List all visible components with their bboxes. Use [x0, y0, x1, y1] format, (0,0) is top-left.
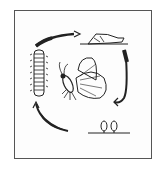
pupa-icon: [80, 34, 128, 44]
life-cycle-diagram: [0, 0, 159, 169]
arrow-egg-to-larva-icon: [33, 102, 68, 131]
eggs-icon: [88, 121, 130, 133]
butterfly-icon: [59, 58, 106, 100]
caterpillar-icon: [30, 50, 48, 96]
arrow-pupa-to-adult-icon: [114, 50, 127, 106]
arrow-larva-to-pupa-icon: [36, 31, 80, 46]
